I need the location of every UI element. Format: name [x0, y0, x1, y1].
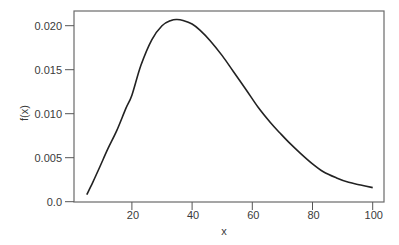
y-tick-label: 0.0 [47, 196, 62, 208]
y-tick-label: 0.005 [34, 152, 62, 164]
plot-border [74, 11, 384, 202]
x-axis-label: x [221, 225, 227, 237]
x-tick-label: 60 [247, 209, 259, 221]
y-tick-label: 0.020 [34, 20, 62, 32]
y-tick-label: 0.015 [34, 64, 62, 76]
x-tick-label: 40 [187, 209, 199, 221]
y-axis: 0.00.0050.0100.0150.020 [34, 20, 74, 208]
plot-frame [74, 11, 384, 202]
y-tick-label: 0.010 [34, 108, 62, 120]
series-layer [87, 20, 373, 195]
x-tick-label: 100 [365, 209, 383, 221]
x-tick-label: 20 [127, 209, 139, 221]
density-curve [87, 20, 373, 195]
x-tick-label: 80 [307, 209, 319, 221]
y-axis-label: f(x) [18, 105, 30, 121]
x-axis: 20406080100 [127, 202, 383, 221]
chart: 0.00.0050.0100.0150.020 20406080100 x f(… [0, 0, 399, 245]
